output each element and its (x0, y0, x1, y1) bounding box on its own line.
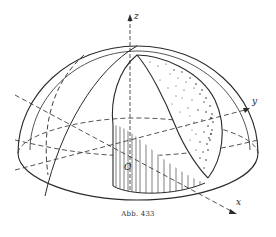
figure-caption: Abb. 433 (0, 210, 276, 218)
x-axis-label: x (236, 198, 241, 207)
z-axis-arrow (128, 14, 133, 21)
z-axis-label: z (134, 12, 139, 21)
hemisphere-diagram (0, 0, 276, 237)
origin-label: O (124, 163, 131, 172)
y-axis-label: y (252, 97, 257, 106)
